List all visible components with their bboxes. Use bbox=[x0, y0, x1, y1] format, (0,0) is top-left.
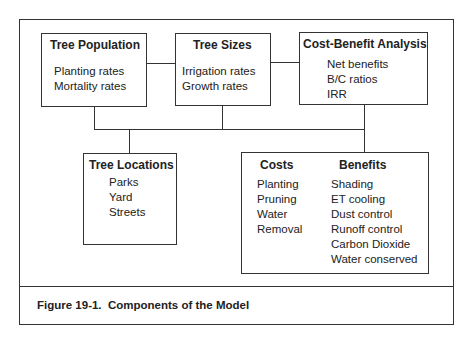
cost-benefit-title: Cost-Benefit Analysis bbox=[303, 37, 427, 51]
list-item: Mortality rates bbox=[54, 79, 126, 94]
tree-sizes-items: Irrigation rates Growth rates bbox=[182, 64, 256, 94]
list-item: Carbon Dioxide bbox=[331, 237, 418, 252]
list-item: Parks bbox=[109, 175, 145, 190]
list-item: Dust control bbox=[331, 207, 418, 222]
tree-sizes-box: Tree Sizes Irrigation rates Growth rates bbox=[175, 33, 271, 106]
tree-locations-items: Parks Yard Streets bbox=[109, 175, 145, 220]
caption-divider bbox=[19, 286, 454, 287]
connector-bus bbox=[94, 129, 365, 130]
tree-locations-box: Tree Locations Parks Yard Streets bbox=[83, 153, 177, 245]
costs-benefits-box: Costs Benefits Planting Pruning Water Re… bbox=[241, 152, 429, 274]
costs-items: Planting Pruning Water Removal bbox=[257, 177, 302, 237]
list-item: Pruning bbox=[257, 192, 302, 207]
list-item: Net benefits bbox=[327, 57, 388, 72]
list-item: Streets bbox=[109, 205, 145, 220]
list-item: Removal bbox=[257, 222, 302, 237]
list-item: Water bbox=[257, 207, 302, 222]
tree-population-title: Tree Population bbox=[50, 38, 140, 52]
list-item: Growth rates bbox=[182, 79, 256, 94]
list-item: Water conserved bbox=[331, 252, 418, 267]
benefits-title: Benefits bbox=[339, 158, 386, 172]
list-item: Planting bbox=[257, 177, 302, 192]
tree-population-box: Tree Population Planting rates Mortality… bbox=[41, 33, 147, 107]
cost-benefit-analysis-box: Cost-Benefit Analysis Net benefits B/C r… bbox=[299, 32, 428, 105]
tree-sizes-title: Tree Sizes bbox=[193, 38, 252, 52]
list-item: Planting rates bbox=[54, 64, 126, 79]
connector-population-down bbox=[94, 106, 95, 130]
connector-sizes-costbenefit bbox=[270, 62, 299, 63]
list-item: Shading bbox=[331, 177, 418, 192]
figure-caption: Figure 19-1. Components of the Model bbox=[37, 299, 249, 311]
list-item: Runoff control bbox=[331, 222, 418, 237]
benefits-items: Shading ET cooling Dust control Runoff c… bbox=[331, 177, 418, 267]
connector-sizes-down bbox=[222, 105, 223, 130]
list-item: Yard bbox=[109, 190, 145, 205]
tree-locations-title: Tree Locations bbox=[89, 158, 174, 172]
list-item: ET cooling bbox=[331, 192, 418, 207]
list-item: IRR bbox=[327, 87, 388, 102]
list-item: Irrigation rates bbox=[182, 64, 256, 79]
tree-population-items: Planting rates Mortality rates bbox=[54, 64, 126, 94]
cost-benefit-items: Net benefits B/C ratios IRR bbox=[327, 57, 388, 102]
connector-population-sizes bbox=[146, 63, 175, 64]
connector-locations bbox=[129, 129, 130, 153]
costs-title: Costs bbox=[260, 158, 293, 172]
list-item: B/C ratios bbox=[327, 72, 388, 87]
